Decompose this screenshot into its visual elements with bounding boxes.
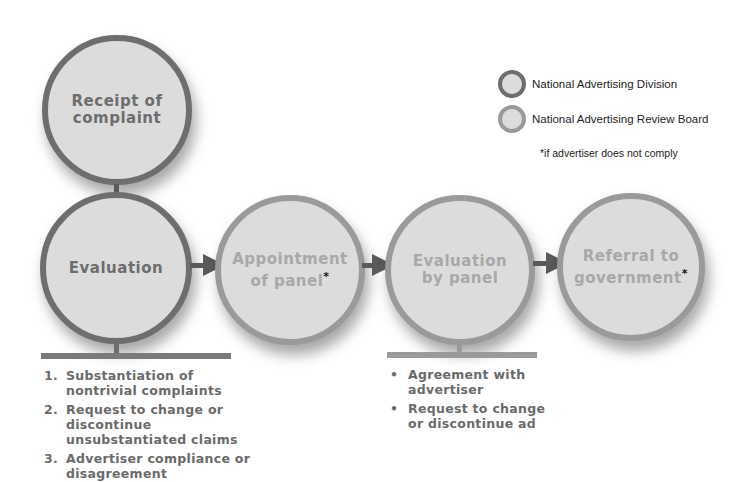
node-appointment-line2: of panel [250,272,323,290]
node-receipt-of-complaint: Receipt of complaint [42,35,192,185]
node-receipt-line1: Receipt of [72,93,163,110]
legend-item-narb: National Advertising Review Board [498,105,708,133]
evaluation-steps-list: 1.Substantiation of nontrivial complaint… [44,368,264,482]
panel-outcomes-list: •Agreement with advertiser •Request to c… [390,367,560,435]
list-item: •Request to change or discontinue ad [390,401,560,431]
node-evaluation-label: Evaluation [69,260,163,277]
node-referral-line2: government [574,269,682,287]
legend-footnote: *if advertiser does not comply [540,147,678,159]
node-referral-to-government: Referral to government* [557,193,705,341]
node-evaluation-panel-line2: by panel [413,270,507,287]
node-evaluation: Evaluation [40,192,192,344]
footnote-star: * [323,270,329,283]
list-item: 2.Request to change or discontinue unsub… [44,402,264,447]
node-evaluation-by-panel: Evaluation by panel [385,195,535,345]
legend-swatch-nad [498,70,526,98]
node-referral-line1: Referral to [574,248,688,265]
legend-swatch-narb [498,105,526,133]
evaluation-bracket-bar [41,353,231,359]
node-appointment-of-panel: Appointment of panel* [215,195,365,345]
footnote-star: * [682,267,688,280]
panel-bracket-bar [387,352,537,358]
legend-item-nad: National Advertising Division [498,70,677,98]
legend-label-narb: National Advertising Review Board [532,113,708,125]
node-appointment-line1: Appointment [232,251,348,268]
node-evaluation-panel-line1: Evaluation [413,253,507,270]
node-receipt-line2: complaint [72,110,163,127]
list-item: •Agreement with advertiser [390,367,560,397]
legend-label-nad: National Advertising Division [532,78,677,90]
list-item: 3.Advertiser compliance or disagreement [44,451,264,481]
list-item: 1.Substantiation of nontrivial complaint… [44,368,264,398]
